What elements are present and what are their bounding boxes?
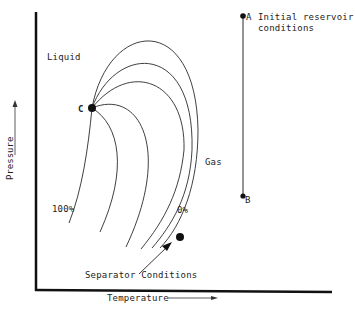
point-a-annotation-line2: conditions — [258, 23, 314, 33]
point-a-annotation-line1: Initial reservoir — [258, 12, 354, 22]
x-axis — [35, 290, 332, 292]
separator-conditions-label: Separator Conditions — [85, 270, 197, 280]
separator-arrow-head — [162, 242, 172, 251]
quality-line-inner-2 — [92, 104, 148, 247]
pressure-arrow-head — [13, 100, 18, 107]
phase-envelope — [69, 41, 198, 249]
quality-label-0: 0% — [177, 205, 188, 215]
point-a-marker — [240, 13, 246, 19]
phase-diagram — [0, 0, 355, 309]
x-axis-label: Temperature — [107, 293, 169, 303]
point-a-label: A — [246, 12, 252, 22]
region-label-liquid: Liquid — [47, 52, 81, 62]
quality-label-100: 100% — [52, 204, 74, 214]
region-label-gas: Gas — [205, 157, 222, 167]
quality-line-inner-1 — [92, 108, 117, 232]
point-b-label: B — [245, 195, 251, 205]
separator-point-marker — [176, 233, 184, 241]
quality-line-inner-4 — [92, 63, 192, 248]
y-axis-label: Pressure — [5, 137, 15, 180]
critical-point-label: C — [78, 104, 84, 114]
critical-point-marker — [88, 104, 96, 112]
temperature-arrow-head — [211, 296, 218, 300]
quality-line-0 — [92, 41, 198, 248]
